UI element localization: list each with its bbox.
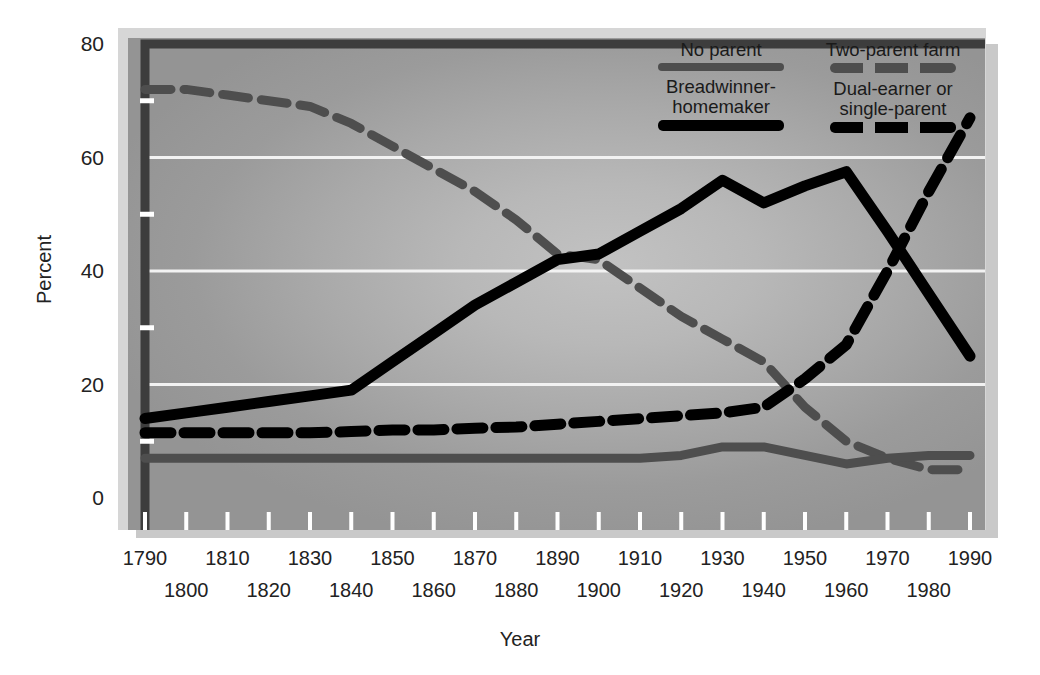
legend-label-two-parent-farm: Two-parent farm: [812, 40, 974, 60]
x-axis-tick-label-1810: 1810: [198, 548, 258, 568]
legend-column-right: Two-parent farm Dual-earner or single-pa…: [812, 40, 974, 139]
legend-swatch-no-parent: [658, 63, 784, 71]
x-axis-tick-label-1920: 1920: [651, 580, 711, 600]
x-axis-tick-label-1940: 1940: [734, 580, 794, 600]
x-axis-tick-label-1870: 1870: [445, 548, 505, 568]
x-axis-tick-label-1930: 1930: [693, 548, 753, 568]
y-axis-tick-label-80: 80: [81, 33, 104, 54]
legend-swatch-two-parent-farm: [830, 63, 956, 73]
x-axis-title: Year: [0, 628, 1040, 651]
x-axis-tick-label-1900: 1900: [569, 580, 629, 600]
x-axis-labels: 1790180018101820183018401850186018701880…: [0, 548, 1040, 618]
legend-column-left: No parent Breadwinner- homemaker: [640, 40, 802, 137]
legend-swatch-dual-earner-single-parent: [830, 122, 956, 133]
chart-legend: No parent Breadwinner- homemaker Two-par…: [636, 40, 980, 154]
series-breadwinner-homemaker: [145, 172, 970, 419]
y-axis-tick-label-20: 20: [81, 374, 104, 395]
x-axis-tick-label-1910: 1910: [610, 548, 670, 568]
x-axis-tick-label-1820: 1820: [239, 580, 299, 600]
x-axis-tick-label-1840: 1840: [321, 580, 381, 600]
x-axis-tick-label-1950: 1950: [775, 548, 835, 568]
x-axis-tick-label-1830: 1830: [280, 548, 340, 568]
legend-swatch-breadwinner-homemaker: [658, 120, 784, 131]
legend-entry-breadwinner-homemaker[interactable]: Breadwinner- homemaker: [640, 77, 802, 131]
legend-entry-no-parent[interactable]: No parent: [640, 40, 802, 71]
x-axis-tick-label-1790: 1790: [115, 548, 175, 568]
x-axis-tick-label-1990: 1990: [940, 548, 1000, 568]
legend-label-breadwinner-homemaker: Breadwinner- homemaker: [640, 77, 802, 117]
y-axis-tick-label-40: 40: [81, 260, 104, 281]
y-axis-tick-label-0: 0: [92, 487, 104, 508]
x-axis-tick-label-1850: 1850: [363, 548, 423, 568]
legend-label-no-parent: No parent: [640, 40, 802, 60]
y-axis-tick-label-60: 60: [81, 147, 104, 168]
x-axis-tick-label-1890: 1890: [528, 548, 588, 568]
x-axis-tick-label-1980: 1980: [899, 580, 959, 600]
x-axis-band: [145, 502, 985, 530]
x-axis-tick-label-1800: 1800: [156, 580, 216, 600]
series-no-parent: [145, 447, 970, 464]
x-axis-tick-label-1880: 1880: [486, 580, 546, 600]
y-axis-title: Percent: [33, 210, 56, 330]
legend-entry-dual-earner-single-parent[interactable]: Dual-earner or single-parent: [812, 79, 974, 133]
x-axis-tick-label-1860: 1860: [404, 580, 464, 600]
x-axis-tick-label-1960: 1960: [816, 580, 876, 600]
figure-root: Percent 020406080 1790180018101820183018…: [0, 0, 1040, 675]
x-axis-tick-label-1970: 1970: [858, 548, 918, 568]
legend-label-dual-earner-single-parent: Dual-earner or single-parent: [812, 79, 974, 119]
legend-entry-two-parent-farm[interactable]: Two-parent farm: [812, 40, 974, 73]
